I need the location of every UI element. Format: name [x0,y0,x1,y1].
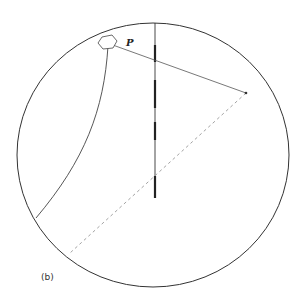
diagram-canvas: P (b) [0,0,301,300]
line-p-to-point [110,44,246,93]
dashed-line [70,93,246,253]
hexagon-particle [98,35,117,49]
point-label: P [125,37,134,48]
endpoint-dot [245,92,248,95]
boundary-circle [17,23,289,287]
panel-label: (b) [41,272,54,282]
